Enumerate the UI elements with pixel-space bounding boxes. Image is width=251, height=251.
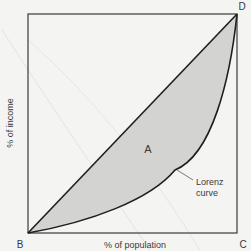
- corner-label-b: B: [17, 239, 24, 250]
- area-label: A: [144, 143, 152, 155]
- curve-label-line2: curve: [196, 188, 218, 198]
- lorenz-curve-diagram: A Lorenz curve B C D % of population % o…: [0, 0, 251, 251]
- corner-label-d: D: [238, 1, 245, 12]
- leader-line: [177, 170, 193, 180]
- y-axis-label: % of income: [5, 98, 15, 148]
- corner-label-c: C: [239, 239, 246, 250]
- curve-label-line1: Lorenz: [196, 177, 224, 187]
- x-axis-label: % of population: [104, 240, 166, 250]
